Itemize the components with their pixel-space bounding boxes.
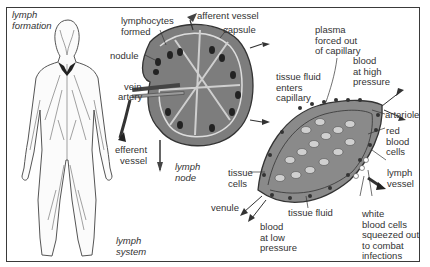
- label-artery: artery: [118, 92, 142, 103]
- label-white-blood-cells: white blood cells squeezed out to combat…: [362, 209, 419, 262]
- label-blood-high-pressure: blood at high pressure: [353, 56, 390, 88]
- lymph-node-caption: lymph node: [175, 162, 200, 183]
- lymph-system-caption: lymph system: [116, 236, 146, 257]
- label-plasma-forced-out: plasma forced out of capillary: [315, 25, 360, 57]
- label-tissue-cells: tissue cells: [228, 168, 253, 189]
- label-red-blood-cells: red blood cells: [386, 126, 409, 158]
- label-lymphocytes-formed: lymphocytes formed: [121, 16, 174, 37]
- label-venule: venule: [211, 203, 239, 214]
- lymph-formation-heading: lymph formation: [12, 10, 52, 31]
- label-nodule: nodule: [110, 51, 139, 62]
- label-afferent-vessel: afferent vessel: [197, 11, 259, 22]
- label-capsule: capsule: [223, 25, 256, 36]
- label-blood-low-pressure: blood at low pressure: [260, 222, 297, 254]
- label-tissue-fluid-enters: tissue fluid enters capillary: [276, 72, 321, 104]
- label-tissue-fluid: tissue fluid: [288, 208, 333, 219]
- label-arteriole: arteriole: [385, 110, 419, 121]
- capillary-bed: [240, 88, 406, 222]
- label-efferent-vessel: efferent vessel: [115, 145, 147, 166]
- label-lymph-vessel: lymph vessel: [387, 168, 414, 189]
